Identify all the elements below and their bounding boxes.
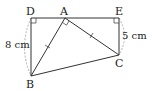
segment-bc: [31, 55, 119, 76]
label-a: A: [59, 5, 69, 18]
geometry-figure: D A E C B 8 cm 5 cm: [0, 0, 155, 91]
label-b: B: [26, 78, 34, 91]
right-angle-mark-d: [31, 18, 36, 23]
measure-label-db: 8 cm: [5, 39, 30, 50]
label-d: D: [26, 5, 35, 18]
label-c: C: [115, 57, 123, 70]
label-e: E: [115, 5, 123, 18]
measure-label-ec: 5 cm: [122, 30, 147, 41]
right-angle-mark-e: [114, 18, 119, 23]
segment-ac: [65, 18, 119, 55]
